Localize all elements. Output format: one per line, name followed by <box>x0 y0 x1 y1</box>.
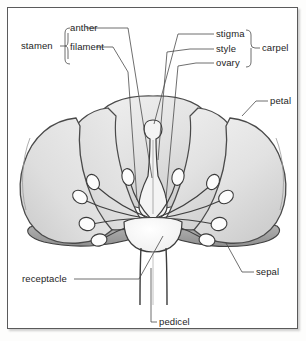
receptacle <box>124 218 182 253</box>
label-carpel: carpel <box>262 43 288 53</box>
label-filament: filament <box>70 42 104 52</box>
label-petal: petal <box>270 96 291 106</box>
label-stamen: stamen <box>21 41 53 51</box>
label-pedicel: pedicel <box>159 317 190 327</box>
flower-illustration <box>0 0 306 341</box>
label-ovary: ovary <box>216 58 240 68</box>
label-anther: anther <box>70 23 98 33</box>
label-style: style <box>216 44 236 54</box>
label-receptacle: receptacle <box>22 274 67 284</box>
label-stigma: stigma <box>216 29 245 39</box>
diagram-canvas: stamen anther filament stigma style ovar… <box>0 0 306 341</box>
pedicel <box>140 248 167 305</box>
label-sepal: sepal <box>256 267 279 277</box>
